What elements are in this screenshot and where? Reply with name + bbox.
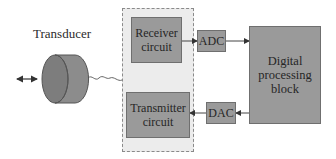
adc-label: ADC — [199, 34, 224, 48]
receiver-label-line1: Receiver — [135, 26, 178, 40]
digital-processing-block: Digital processing block — [249, 26, 321, 124]
cable-wire — [88, 77, 122, 81]
transducer-label: Transducer — [22, 27, 102, 41]
transmitter-label-line2: circuit — [143, 115, 174, 129]
receiver-circuit-block: Receiver circuit — [131, 17, 182, 63]
transducer-cylinder-icon — [42, 55, 89, 103]
dac-block: DAC — [206, 102, 236, 124]
digital-label-line2: processing — [258, 68, 311, 82]
digital-label-line3: block — [271, 82, 299, 96]
dac-label: DAC — [208, 106, 233, 120]
receiver-label-line2: circuit — [141, 40, 172, 54]
digital-label-line1: Digital — [268, 54, 303, 68]
adc-block: ADC — [197, 30, 226, 52]
transmitter-label-line1: Transmitter — [130, 101, 186, 115]
transmitter-circuit-block: Transmitter circuit — [126, 92, 190, 138]
